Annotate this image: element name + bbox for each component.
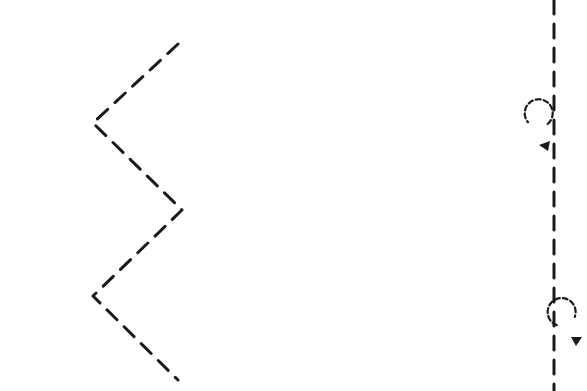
background <box>0 0 587 391</box>
diagram-canvas <box>0 0 587 391</box>
